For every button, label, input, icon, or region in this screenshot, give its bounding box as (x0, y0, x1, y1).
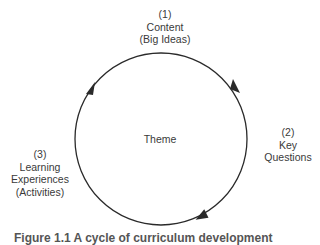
arrow-icon-content-to-questions (230, 79, 240, 93)
arrow-icon-activities-to-content (86, 82, 95, 95)
node-title: Key (258, 139, 318, 152)
node-content: (1) Content (Big Ideas) (120, 8, 210, 46)
node-number: (3) (2, 148, 78, 161)
node-learning-experiences: (3) Learning Experiences (Activities) (2, 148, 78, 198)
node-subtitle: (Activities) (2, 186, 78, 199)
node-key-questions: (2) Key Questions (258, 126, 318, 164)
figure-caption: Figure 1.1 A cycle of curriculum develop… (14, 231, 273, 245)
node-subtitle: (Big Ideas) (120, 33, 210, 46)
node-title: Content (120, 21, 210, 34)
node-title: Learning (2, 161, 78, 174)
node-number: (1) (120, 8, 210, 21)
node-title-2: Experiences (2, 173, 78, 186)
node-number: (2) (258, 126, 318, 139)
node-subtitle: Questions (258, 151, 318, 164)
center-theme-label: Theme (130, 133, 190, 146)
